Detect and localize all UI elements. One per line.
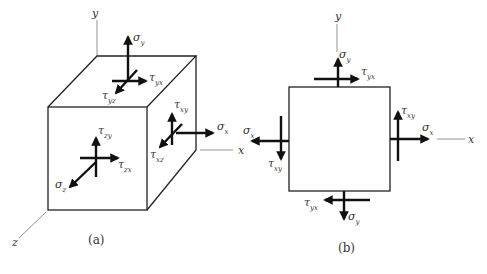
svg-text:σx: σx <box>217 120 229 136</box>
svg-text:τzx: τzx <box>118 158 132 174</box>
element-square <box>289 87 390 191</box>
svg-text:τyz: τyz <box>102 89 116 105</box>
tau-xy-label-a: τxy <box>174 98 189 114</box>
panel-b-2d-element: y x σy τyx σx τxy τxy σx <box>243 10 475 255</box>
y-axis-label-a: y <box>91 7 99 20</box>
panel-a-3d-element: y x z σy τyx τyz τxy σx τxz <box>11 7 245 249</box>
svg-text:τyx: τyx <box>304 196 318 212</box>
sigma-x-label-a: σx <box>217 120 229 136</box>
x-axis-label-a: x <box>238 144 245 157</box>
svg-text:σz: σz <box>55 178 67 194</box>
x-axis-label-b: x <box>468 133 475 146</box>
svg-text:σy: σy <box>133 31 146 47</box>
caption-b: (b) <box>338 241 355 255</box>
svg-text:τzy: τzy <box>98 124 113 140</box>
svg-text:τxz: τxz <box>150 148 164 164</box>
svg-text:τxy: τxy <box>268 157 283 173</box>
svg-text:σy: σy <box>348 210 361 226</box>
svg-text:τyx: τyx <box>361 65 375 81</box>
tau-yx-label-a: τyx <box>149 71 163 87</box>
z-axis-line-a <box>19 212 46 238</box>
tau-yx-top-label-b: τyx <box>361 65 375 81</box>
sigma-z-label-a: σz <box>55 178 67 194</box>
sigma-y-top-label-b: σy <box>339 48 352 64</box>
sigma-x-right-label-b: σx <box>422 121 434 137</box>
sigma-x-left-label-b: σx <box>243 124 255 140</box>
svg-text:σy: σy <box>339 48 352 64</box>
svg-text:τxy: τxy <box>174 98 189 114</box>
z-axis-label-a: z <box>11 236 18 249</box>
svg-text:τxy: τxy <box>401 104 416 120</box>
sigma-y-label-a: σy <box>133 31 146 47</box>
svg-text:σx: σx <box>243 124 255 140</box>
tau-xz-label-a: τxz <box>150 148 164 164</box>
svg-text:τyx: τyx <box>149 71 163 87</box>
y-axis-label-b: y <box>334 10 342 23</box>
tau-zx-label-a: τzx <box>118 158 132 174</box>
tau-zy-label-a: τzy <box>98 124 113 140</box>
tau-xy-left-label-b: τxy <box>268 157 283 173</box>
tau-yz-label-a: τyz <box>102 89 116 105</box>
svg-text:σx: σx <box>422 121 434 137</box>
tau-xy-right-label-b: τxy <box>401 104 416 120</box>
stress-element-diagram: y x z σy τyx τyz τxy σx τxz <box>0 0 487 274</box>
sigma-z-arrow-a <box>70 162 96 187</box>
sigma-y-bottom-label-b: σy <box>348 210 361 226</box>
caption-a: (a) <box>88 233 105 247</box>
tau-yx-bottom-label-b: τyx <box>304 196 318 212</box>
